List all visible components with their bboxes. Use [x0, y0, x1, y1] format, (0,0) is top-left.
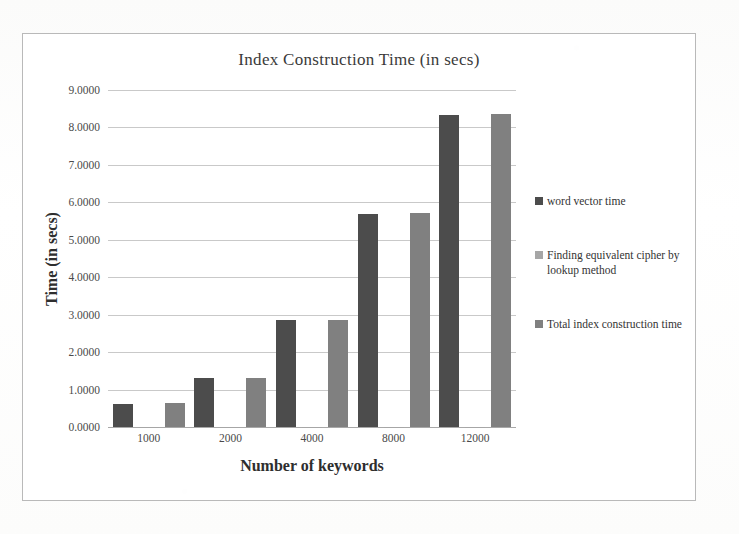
bar-group: [353, 90, 435, 427]
y-axis-tick-label: 1.0000: [68, 384, 100, 396]
y-axis-tick-label: 8.0000: [68, 121, 100, 133]
bar-group: [190, 90, 272, 427]
legend-swatch-icon: [535, 251, 543, 259]
legend-label: Finding equivalent cipher by lookup meth…: [547, 248, 683, 277]
y-axis-tick-label: 2.0000: [68, 346, 100, 358]
legend-label: word vector time: [547, 194, 626, 208]
bar: [328, 320, 348, 427]
chart-frame: Index Construction Time (in secs) Time (…: [22, 33, 696, 501]
legend-label: Total index construction time: [547, 317, 682, 331]
y-axis-title-label: Time (in secs): [43, 212, 61, 306]
y-axis-tick-label: 6.0000: [68, 196, 100, 208]
y-axis-tick-label: 5.0000: [68, 234, 100, 246]
x-axis-tick-label: 8000: [353, 432, 435, 444]
chart-legend: word vector timeFinding equivalent ciphe…: [535, 194, 683, 332]
y-axis-tick-label: 4.0000: [68, 271, 100, 283]
legend-swatch-icon: [535, 197, 543, 205]
plot-area: 0.00001.00002.00003.00004.00005.00006.00…: [108, 90, 516, 427]
x-axis-ticks: 100020004000800012000: [108, 432, 516, 444]
legend-entry[interactable]: word vector time: [535, 194, 683, 208]
y-axis-title: Time (in secs): [41, 90, 63, 427]
bar: [246, 378, 266, 427]
y-axis-tick-label: 0.0000: [68, 421, 100, 433]
legend-swatch-icon: [535, 320, 543, 328]
legend-entry[interactable]: Total index construction time: [535, 317, 683, 331]
x-axis-tick-label: 2000: [190, 432, 272, 444]
x-axis-title: Number of keywords: [108, 457, 516, 475]
x-axis-tick-label: 12000: [434, 432, 516, 444]
bar-group: [108, 90, 190, 427]
bar-group: [434, 90, 516, 427]
y-axis-tick-label: 7.0000: [68, 159, 100, 171]
y-axis-tick-label: 3.0000: [68, 309, 100, 321]
bar-groups: [108, 90, 516, 427]
bar: [194, 378, 214, 427]
bar: [358, 214, 378, 427]
x-axis-tick-label: 1000: [108, 432, 190, 444]
bar: [165, 403, 185, 427]
bar: [113, 404, 133, 427]
bar-group: [271, 90, 353, 427]
bar: [276, 320, 296, 427]
bar: [410, 213, 430, 427]
legend-entry[interactable]: Finding equivalent cipher by lookup meth…: [535, 248, 683, 277]
bar: [439, 115, 459, 427]
chart-title: Index Construction Time (in secs): [23, 50, 695, 70]
gridline: [108, 427, 516, 428]
bar: [491, 114, 511, 427]
x-axis-tick-label: 4000: [271, 432, 353, 444]
y-axis-tick-label: 9.0000: [68, 84, 100, 96]
